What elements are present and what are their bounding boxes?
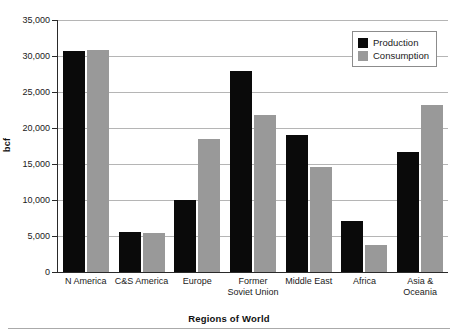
bar-consumption [365, 245, 387, 272]
y-tick-mark-10000 [52, 200, 57, 201]
legend-swatch-production-icon [358, 38, 368, 48]
bar-group [114, 20, 170, 272]
y-tick-label-20000: 20,000 [0, 124, 50, 133]
x-axis-label: Asia & Oceania [386, 276, 454, 297]
y-tick-label-5000: 5,000 [0, 232, 50, 241]
bar-group [225, 20, 281, 272]
legend-swatch-consumption-icon [358, 51, 368, 61]
bar-chart: bcf 05,00010,00015,00020,00025,00030,000… [0, 0, 458, 335]
y-axis-title: bcf [2, 138, 12, 152]
bar-production [286, 135, 308, 272]
y-tick-mark-25000 [52, 92, 57, 93]
y-tick-mark-5000 [52, 236, 57, 237]
y-tick-label-10000: 10,000 [0, 196, 50, 205]
bar-production [341, 221, 363, 272]
bar-consumption [198, 139, 220, 272]
chart-legend: Production Consumption [352, 31, 437, 67]
bar-production [119, 232, 141, 272]
legend-label-consumption: Consumption [373, 50, 429, 61]
y-tick-label-0: 0 [0, 268, 50, 277]
bar-production [397, 152, 419, 272]
bar-production [230, 71, 252, 272]
y-tick-mark-30000 [52, 56, 57, 57]
x-axis-title: Regions of World [0, 313, 458, 324]
gridline-0 [58, 272, 448, 273]
bar-group [58, 20, 114, 272]
y-tick-label-35000: 35,000 [0, 16, 50, 25]
legend-item-consumption: Consumption [358, 49, 429, 62]
bar-consumption [254, 115, 276, 272]
y-tick-label-15000: 15,000 [0, 160, 50, 169]
legend-item-production: Production [358, 36, 429, 49]
y-tick-mark-35000 [52, 20, 57, 21]
footer-divider [8, 328, 450, 329]
bar-production [63, 51, 85, 272]
legend-label-production: Production [373, 37, 418, 48]
y-tick-label-30000: 30,000 [0, 52, 50, 61]
bar-group [169, 20, 225, 272]
y-tick-mark-15000 [52, 164, 57, 165]
bar-consumption [421, 105, 443, 272]
bar-consumption [143, 233, 165, 272]
y-tick-label-25000: 25,000 [0, 88, 50, 97]
y-tick-mark-20000 [52, 128, 57, 129]
bar-consumption [87, 50, 109, 272]
bar-consumption [310, 167, 332, 272]
y-tick-mark-0 [52, 272, 57, 273]
bar-group [281, 20, 337, 272]
bar-production [174, 200, 196, 272]
